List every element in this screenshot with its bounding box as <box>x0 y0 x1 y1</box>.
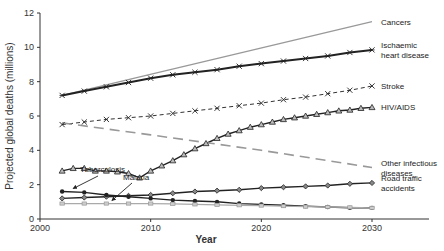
x-tick-label: 2000 <box>30 223 50 233</box>
data-point-ischaemic-heart-disease <box>60 93 65 98</box>
axes <box>40 13 429 219</box>
data-point-ischaemic-heart-disease <box>369 47 374 52</box>
annotation-tuberculosis: Tuberculosis <box>80 165 125 174</box>
data-point-road-traffic-accidents <box>347 181 352 186</box>
data-point-malaria <box>348 206 352 209</box>
data-point-malaria <box>126 202 130 205</box>
y-tick-label: 8 <box>29 77 34 87</box>
series-markers <box>59 47 375 210</box>
annotation-malaria: Malaria <box>123 173 150 182</box>
series-label-hiv-aids: HIV/AIDS <box>381 103 415 112</box>
data-point-malaria <box>281 205 285 208</box>
data-point-malaria <box>259 204 263 207</box>
series-label-road-traffic-accidents: Road traffic <box>381 174 422 183</box>
data-point-ischaemic-heart-disease <box>192 70 197 75</box>
data-point-road-traffic-accidents <box>192 189 197 194</box>
data-point-tuberculosis <box>126 194 130 198</box>
data-point-malaria <box>326 205 330 208</box>
series-labels: CancersIschaemicheart diseaseStrokeHIV/A… <box>381 18 437 193</box>
series-label-ischaemic-heart-disease: heart disease <box>381 51 430 60</box>
data-point-ischaemic-heart-disease <box>126 80 131 85</box>
data-point-malaria <box>82 202 86 205</box>
y-tick-label: 4 <box>29 145 34 155</box>
data-point-tuberculosis <box>148 196 152 200</box>
data-point-ischaemic-heart-disease <box>170 72 175 77</box>
data-point-tuberculosis <box>60 189 64 193</box>
x-tick-label: 2020 <box>251 223 271 233</box>
data-point-malaria <box>237 204 241 207</box>
series-label-ischaemic-heart-disease: Ischaemic <box>381 41 417 50</box>
data-point-malaria <box>104 202 108 205</box>
data-point-malaria <box>193 203 197 206</box>
data-point-road-traffic-accidents <box>281 185 286 190</box>
x-tick-label: 2030 <box>362 223 382 233</box>
y-tick-label: 6 <box>29 111 34 121</box>
data-point-ischaemic-heart-disease <box>82 89 87 94</box>
y-tick-label: 10 <box>24 42 34 52</box>
line-chart: 0246810122000201020202030 CancersIschaem… <box>0 0 444 251</box>
data-point-malaria <box>171 202 175 205</box>
annotation-arrow-tuberculosis <box>73 176 98 189</box>
series-line-other-infectious-diseases <box>62 123 372 168</box>
data-point-ischaemic-heart-disease <box>303 56 308 61</box>
y-tick-label: 2 <box>29 180 34 190</box>
series-label-cancers: Cancers <box>381 18 411 27</box>
ticks: 0246810122000201020202030 <box>24 8 382 233</box>
data-point-malaria <box>370 206 374 209</box>
data-point-road-traffic-accidents <box>214 188 219 193</box>
data-point-road-traffic-accidents <box>237 187 242 192</box>
y-tick-label: 12 <box>24 8 34 18</box>
data-point-tuberculosis <box>82 190 86 194</box>
data-point-ischaemic-heart-disease <box>325 53 330 58</box>
data-point-ischaemic-heart-disease <box>281 58 286 63</box>
data-point-tuberculosis <box>171 198 175 202</box>
data-point-road-traffic-accidents <box>82 195 87 200</box>
data-point-road-traffic-accidents <box>325 183 330 188</box>
data-point-road-traffic-accidents <box>369 180 374 185</box>
data-point-road-traffic-accidents <box>259 186 264 191</box>
data-point-road-traffic-accidents <box>60 196 65 201</box>
data-point-road-traffic-accidents <box>303 184 308 189</box>
x-tick-label: 2010 <box>141 223 161 233</box>
data-point-tuberculosis <box>104 193 108 197</box>
x-axis-title: Year <box>195 234 216 245</box>
data-point-ischaemic-heart-disease <box>259 61 264 66</box>
data-point-ischaemic-heart-disease <box>214 67 219 72</box>
y-axis-title: Projected global deaths (millions) <box>4 42 15 189</box>
data-point-malaria <box>303 205 307 208</box>
data-point-malaria <box>215 203 219 206</box>
data-point-malaria <box>148 202 152 205</box>
data-point-road-traffic-accidents <box>170 191 175 196</box>
data-point-ischaemic-heart-disease <box>148 76 153 81</box>
series-label-other-infectious-diseases: Other infectious <box>381 159 437 168</box>
data-point-ischaemic-heart-disease <box>347 50 352 55</box>
data-point-malaria <box>60 202 64 205</box>
series-label-stroke: Stroke <box>381 82 405 91</box>
data-point-ischaemic-heart-disease <box>237 64 242 69</box>
series-label-road-traffic-accidents: accidents <box>381 184 415 193</box>
